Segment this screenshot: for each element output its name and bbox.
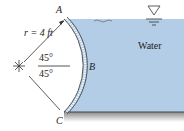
water-region bbox=[64, 19, 184, 112]
label-water: Water bbox=[138, 41, 162, 51]
hinge-center-icon bbox=[13, 60, 25, 72]
label-point-b: B bbox=[89, 62, 95, 72]
label-point-c: C bbox=[56, 116, 63, 126]
label-angle-bottom: 45° bbox=[39, 69, 53, 79]
label-point-a: A bbox=[56, 5, 62, 15]
label-angle-top: 45° bbox=[39, 53, 53, 63]
ground bbox=[64, 112, 184, 122]
label-radius: r = 4 ft bbox=[24, 28, 53, 38]
